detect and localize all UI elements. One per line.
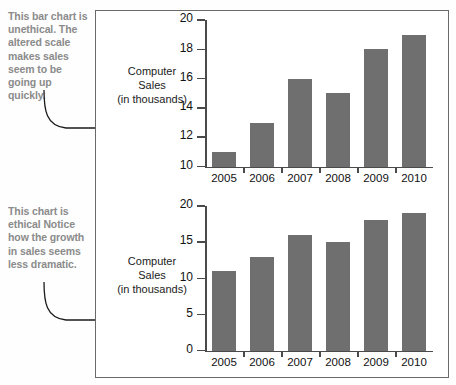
y-axis-tick-label: 14 (180, 99, 193, 113)
bar-2007 (288, 235, 312, 351)
y-axis-line (205, 206, 207, 352)
x-axis-label-2007: 2007 (281, 356, 319, 368)
y-axis-tick: 14 (197, 107, 205, 109)
bar-2009 (364, 220, 388, 350)
x-axis-label-2006: 2006 (243, 356, 281, 368)
chart-unethical-plot: 101214161820 (205, 20, 433, 168)
bar-2006 (250, 123, 274, 167)
y-axis-tick: 18 (197, 49, 205, 51)
annotation-bottom: This chart is ethical Notice how the gro… (8, 205, 94, 271)
chart-ethical-plot: 05101520 (205, 206, 433, 352)
x-axis-label-2005: 2005 (205, 356, 243, 368)
bar-2007 (288, 79, 312, 167)
x-axis-label-2008: 2008 (319, 356, 357, 368)
y-axis-tick-label: 18 (180, 41, 193, 55)
y-axis-tick-label: 10 (180, 158, 193, 172)
bar-2008 (326, 93, 350, 166)
y-axis-tick: 5 (197, 314, 205, 316)
y-axis-tick-label: 5 (186, 306, 193, 320)
bar-2006 (250, 257, 274, 351)
y-axis-tick: 20 (197, 19, 205, 21)
y-axis-tick: 16 (197, 78, 205, 80)
y-axis-tick-label: 15 (180, 233, 193, 247)
chart-ethical: Computer Sales (in thousands) 05101520 2… (100, 196, 445, 376)
y-axis-title-line3: (in thousands) (102, 282, 202, 296)
x-axis-label-2008: 2008 (319, 172, 357, 184)
y-axis-tick: 15 (197, 241, 205, 243)
chart-unethical: Computer Sales (in thousands) 1012141618… (100, 12, 445, 190)
x-axis-label-2007: 2007 (281, 172, 319, 184)
y-axis-tick: 0 (197, 350, 205, 352)
x-axis-label-2010: 2010 (395, 356, 433, 368)
bar-2008 (326, 242, 350, 350)
y-axis-tick: 12 (197, 136, 205, 138)
bar-2010 (402, 35, 426, 167)
y-axis-tick-label: 20 (180, 197, 193, 211)
x-axis-label-2006: 2006 (243, 172, 281, 184)
y-axis-tick-label: 20 (180, 11, 193, 25)
x-axis-label-2010: 2010 (395, 172, 433, 184)
x-axis-label-2009: 2009 (357, 356, 395, 368)
bar-2010 (402, 213, 426, 350)
y-axis-tick-label: 10 (180, 270, 193, 284)
figure-root: This bar chart is unethical. The altered… (0, 0, 456, 385)
y-axis-tick: 10 (197, 166, 205, 168)
y-axis-tick-label: 16 (180, 70, 193, 84)
y-axis-tick: 20 (197, 205, 205, 207)
bar-2009 (364, 49, 388, 166)
annotation-top: This bar chart is unethical. The altered… (8, 10, 90, 102)
y-axis-tick: 10 (197, 278, 205, 280)
y-axis-tick-label: 12 (180, 128, 193, 142)
bar-2005 (212, 152, 236, 167)
y-axis-tick-label: 0 (186, 342, 193, 356)
bar-2005 (212, 271, 236, 350)
y-axis-title-line1: Computer (102, 254, 202, 268)
x-axis-label-2009: 2009 (357, 172, 395, 184)
x-axis-label-2005: 2005 (205, 172, 243, 184)
y-axis-line (205, 20, 207, 168)
